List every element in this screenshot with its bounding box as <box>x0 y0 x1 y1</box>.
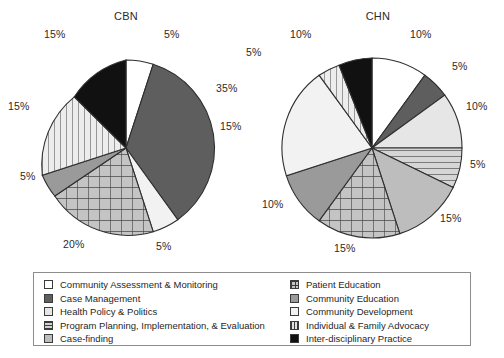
legend-label-interdisciplinary-practice: Inter-disciplinary Practice <box>306 333 412 344</box>
cbn-label-community-development: 5% <box>156 240 172 252</box>
legend-label-community-development: Community Development <box>306 306 413 317</box>
chn-label-community-development: 15% <box>220 120 242 132</box>
legend-column-1: Community Assessment & Monitoring Case M… <box>34 273 290 345</box>
vertical-lines-swatch-icon <box>290 321 299 330</box>
legend-item-community-development: Community Development <box>290 305 480 318</box>
pie-chn: 10% 5% 10% 5% 15% 15% 10% 15% 5% 10% <box>252 0 504 268</box>
cbn-label-interdisciplinary-practice: 15% <box>44 28 66 40</box>
legend-label-case-management: Case Management <box>60 293 140 304</box>
chn-label-case-finding: 15% <box>440 212 462 224</box>
black-swatch-icon <box>290 334 299 343</box>
light-gray-swatch-icon <box>44 307 53 316</box>
legend-item-patient-education: Patient Education <box>290 278 480 291</box>
legend-item-health-policy: Health Policy & Politics <box>44 305 290 318</box>
medium-gray-swatch-icon <box>44 334 53 343</box>
legend-item-interdisciplinary-practice: Inter-disciplinary Practice <box>290 332 480 345</box>
legend-item-community-education: Community Education <box>290 292 480 305</box>
chart-chn: CHN <box>252 0 504 268</box>
pie-cbn: 5% 35% 5% 20% 5% 15% 15% <box>0 0 252 268</box>
chn-label-program-planning: 5% <box>470 158 486 170</box>
chn-label-patient-education: 15% <box>334 242 356 254</box>
cbn-label-case-management: 35% <box>216 82 238 94</box>
legend-item-individual-family-advocacy: Individual & Family Advocacy <box>290 319 480 332</box>
dark-gray-swatch-icon <box>44 294 53 303</box>
community-education-gray-swatch-icon <box>290 294 299 303</box>
charts-container: CBN <box>0 0 504 268</box>
legend-item-case-management: Case Management <box>44 292 290 305</box>
chn-label-health-policy: 10% <box>466 100 488 112</box>
legend-label-patient-education: Patient Education <box>306 279 380 290</box>
grid-swatch-icon <box>290 280 299 289</box>
horizontal-lines-swatch-icon <box>44 321 53 330</box>
cbn-label-community-assessment: 5% <box>164 28 180 40</box>
legend-label-health-policy: Health Policy & Politics <box>60 306 157 317</box>
chart-legend: Community Assessment & Monitoring Case M… <box>33 272 471 346</box>
legend-label-program-planning: Program Planning, Implementation, & Eval… <box>60 320 265 331</box>
legend-column-2: Patient Education Community Education Co… <box>290 273 480 345</box>
very-light-gray-swatch-icon <box>290 307 299 316</box>
cbn-label-individual-family-advocacy: 15% <box>8 100 30 112</box>
white-swatch-icon <box>44 280 53 289</box>
chn-label-individual-family-advocacy: 5% <box>246 46 262 58</box>
legend-label-community-assessment: Community Assessment & Monitoring <box>60 279 218 290</box>
chn-label-community-education: 10% <box>262 198 284 210</box>
pie-chn-svg <box>252 0 504 268</box>
chn-label-interdisciplinary-practice: 10% <box>290 28 312 40</box>
legend-item-case-finding: Case-finding <box>44 332 290 345</box>
legend-item-community-assessment: Community Assessment & Monitoring <box>44 278 290 291</box>
cbn-label-patient-education: 20% <box>63 238 85 250</box>
chn-label-case-management: 5% <box>452 60 468 72</box>
legend-label-case-finding: Case-finding <box>60 333 113 344</box>
cbn-label-community-education: 5% <box>20 170 36 182</box>
chart-cbn: CBN <box>0 0 252 268</box>
legend-label-individual-family-advocacy: Individual & Family Advocacy <box>306 320 429 331</box>
legend-label-community-education: Community Education <box>306 293 399 304</box>
pie-cbn-svg <box>0 0 252 268</box>
chn-label-community-assessment: 10% <box>410 28 432 40</box>
legend-item-program-planning: Program Planning, Implementation, & Eval… <box>44 319 290 332</box>
